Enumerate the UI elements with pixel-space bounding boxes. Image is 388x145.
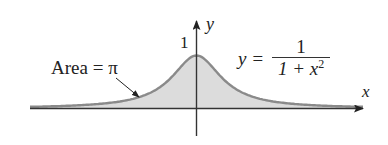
integral-diagram: Area = π 1 y x y = 1 1 + x2 — [0, 0, 388, 145]
equation-numerator: 1 — [296, 38, 306, 56]
y-axis-label: y — [206, 14, 214, 35]
equation-denominator: 1 + x2 — [278, 59, 324, 79]
area-pointer-arrow — [116, 78, 139, 97]
area-label: Area = π — [51, 57, 118, 79]
peak-value-label: 1 — [180, 33, 189, 53]
denominator-exponent: 2 — [318, 57, 324, 71]
equation-fraction: 1 1 + x2 — [272, 38, 330, 79]
denominator-base: 1 + x — [278, 58, 318, 79]
x-axis-label: x — [362, 82, 370, 102]
function-equation: y = 1 1 + x2 — [238, 38, 330, 79]
equation-lhs: y = — [238, 48, 264, 70]
